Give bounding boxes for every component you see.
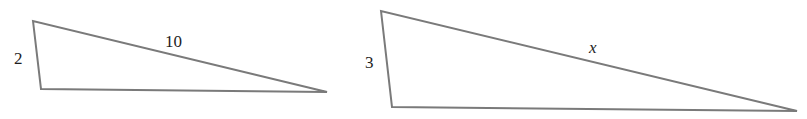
triangle-2: 3 x xyxy=(365,11,797,111)
triangle-1-hypotenuse-label: 10 xyxy=(165,32,182,51)
triangle-2-short-side-label: 3 xyxy=(365,53,374,72)
triangle-1-short-side-label: 2 xyxy=(14,49,23,68)
triangle-2-hypotenuse-label: x xyxy=(588,38,597,57)
triangle-2-outline xyxy=(381,11,797,111)
triangle-1: 2 10 xyxy=(14,21,327,92)
similar-triangles-diagram: 2 10 3 x xyxy=(0,0,807,119)
